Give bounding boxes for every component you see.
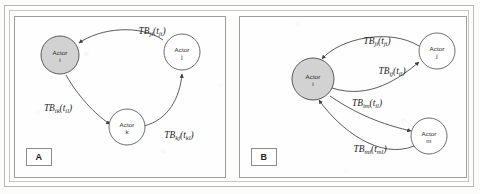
node-label-line1: Actor: [175, 46, 190, 53]
node-label-line1: Actor: [430, 45, 445, 52]
panel-a-tag: A: [26, 148, 52, 166]
arc-label-a-kj: TBkj(tkl): [164, 130, 193, 141]
arc-label-a-ik: TBik(til): [44, 103, 72, 114]
node-label-line1: Actor: [120, 121, 135, 128]
node-label-line2: i: [59, 56, 60, 63]
node-label-line2: j: [435, 52, 437, 59]
node-label-line1: Actor: [53, 49, 68, 56]
node-label-line2: i: [312, 80, 313, 87]
panel-b-tag: B: [251, 148, 277, 166]
arc-label-a-ji: TBji(tji): [138, 26, 165, 37]
arc-a-kj: [144, 74, 182, 126]
arc-label-b-ij: TBij(til): [378, 66, 405, 77]
arc-a-ik: [66, 75, 110, 124]
arc-label-b-mi: TBmi(tml): [354, 144, 387, 155]
node-label-line2: m: [426, 137, 431, 144]
arc-b-ij: [332, 62, 419, 91]
arc-label-b-ji: TBji(tji): [363, 36, 390, 47]
diagram-vector-layer: ActoriActorjActorkActoriActorjActorm TBj…: [0, 0, 480, 194]
arc-label-b-im: TBim(til): [352, 98, 382, 109]
node-label-line1: Actor: [422, 130, 437, 137]
node-label-line1: Actor: [306, 73, 321, 80]
scanned-figure-canvas: ActoriActorjActorkActoriActorjActorm TBj…: [0, 0, 480, 194]
node-label-line2: j: [180, 53, 182, 60]
